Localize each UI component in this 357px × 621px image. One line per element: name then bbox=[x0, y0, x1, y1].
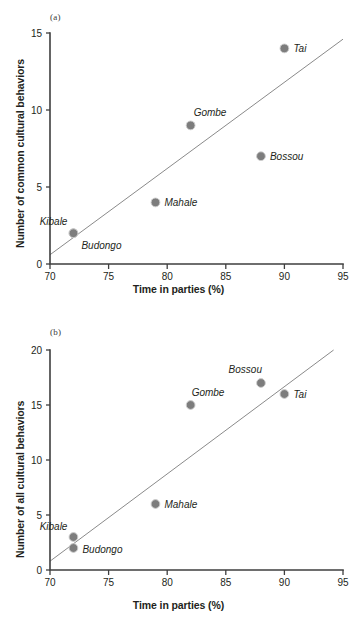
y-tick-label: 5 bbox=[36, 182, 42, 193]
data-point-marker bbox=[280, 390, 289, 399]
data-point-marker bbox=[280, 44, 289, 53]
axis-lines bbox=[50, 33, 343, 264]
panel-a: (a) Number of common cultural behaviors … bbox=[0, 0, 357, 300]
data-point-marker bbox=[69, 229, 78, 238]
regression-line bbox=[50, 350, 334, 561]
data-point-label: Mahale bbox=[164, 197, 197, 208]
data-point-label: Budongo bbox=[81, 240, 121, 251]
x-tick-label: 95 bbox=[337, 271, 349, 282]
data-point-label: Bossou bbox=[270, 151, 304, 162]
data-point-marker bbox=[257, 379, 266, 388]
x-tick-label: 75 bbox=[103, 577, 115, 588]
figure-container: (a) Number of common cultural behaviors … bbox=[0, 0, 357, 621]
x-tick-label: 70 bbox=[44, 577, 56, 588]
data-point-marker bbox=[257, 152, 266, 161]
x-tick-label: 75 bbox=[103, 271, 115, 282]
data-point-marker bbox=[186, 121, 195, 130]
data-point-label: Tai bbox=[293, 389, 307, 400]
data-point-label: Budongo bbox=[82, 544, 122, 555]
data-point-marker bbox=[151, 500, 160, 509]
data-point-label: Bossou bbox=[229, 364, 263, 375]
y-tick-label: 10 bbox=[31, 105, 43, 116]
data-point-label: Kibale bbox=[40, 521, 68, 532]
x-tick-label: 85 bbox=[220, 577, 232, 588]
data-point-marker bbox=[151, 198, 160, 207]
panel-b-plot: 05101520707580859095BudongoKibaleMahaleG… bbox=[0, 300, 357, 621]
data-point-label: Gombe bbox=[192, 387, 225, 398]
y-tick-label: 10 bbox=[31, 455, 43, 466]
axis-lines bbox=[50, 350, 343, 570]
x-tick-label: 90 bbox=[279, 577, 291, 588]
panel-b: (b) Number of all cultural behaviors Tim… bbox=[0, 300, 357, 621]
y-tick-label: 5 bbox=[36, 510, 42, 521]
data-point-label: Gombe bbox=[194, 107, 227, 118]
y-tick-label: 15 bbox=[31, 400, 43, 411]
data-point-label: Mahale bbox=[164, 499, 197, 510]
data-point-marker bbox=[186, 401, 195, 410]
y-tick-label: 15 bbox=[31, 28, 43, 39]
data-point-label: Kibale bbox=[40, 216, 68, 227]
x-tick-label: 70 bbox=[44, 271, 56, 282]
x-tick-label: 80 bbox=[162, 271, 174, 282]
y-tick-label: 0 bbox=[36, 565, 42, 576]
x-tick-label: 90 bbox=[279, 271, 291, 282]
regression-line bbox=[50, 39, 343, 255]
x-tick-label: 95 bbox=[337, 577, 349, 588]
data-point-marker bbox=[69, 544, 78, 553]
data-point-marker bbox=[69, 533, 78, 542]
y-tick-label: 20 bbox=[31, 345, 43, 356]
data-point-label: Tai bbox=[293, 43, 307, 54]
x-tick-label: 85 bbox=[220, 271, 232, 282]
x-tick-label: 80 bbox=[162, 577, 174, 588]
panel-a-plot: 051015707580859095KibaleBudongoMahaleGom… bbox=[0, 0, 357, 300]
y-tick-label: 0 bbox=[36, 259, 42, 270]
